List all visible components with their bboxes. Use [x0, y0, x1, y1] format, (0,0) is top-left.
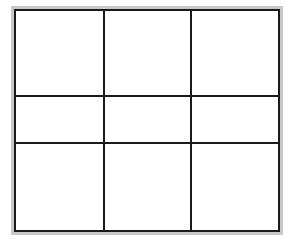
- grid-cell-r2c1: [16, 97, 103, 142]
- grid-cell-r2c3: [192, 97, 278, 142]
- grid-cell-r3c3: [192, 144, 278, 230]
- grid-cell-r2c2: [105, 97, 190, 142]
- grid-cell-r3c1: [16, 144, 103, 230]
- grid-cell-r1c1: [16, 11, 103, 95]
- grid-cell-r1c2: [105, 11, 190, 95]
- grid-cell-r3c2: [105, 144, 190, 230]
- grid-cell-r1c3: [192, 11, 278, 95]
